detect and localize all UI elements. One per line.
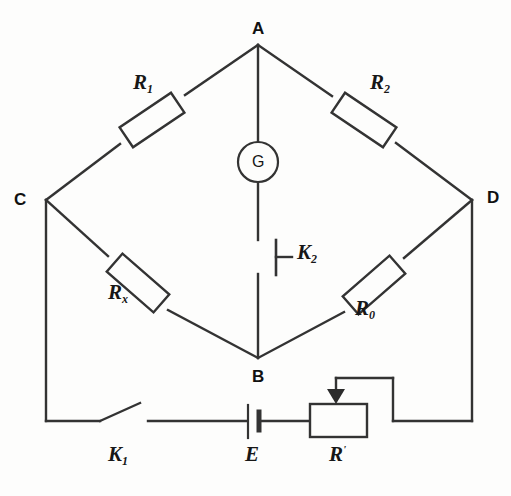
wire-rx-to-b — [168, 310, 258, 358]
resistor-r2-subscript: 2 — [384, 82, 390, 96]
node-label-b: B — [252, 368, 264, 385]
wire-a-to-r2 — [258, 45, 332, 96]
resistor-rx-letter: R — [108, 280, 122, 304]
resistor-r2-body[interactable] — [332, 93, 397, 148]
resistor-r0-label: R0 — [355, 298, 375, 319]
rheostat-letter: R — [329, 442, 343, 466]
k1-switch-blade[interactable] — [100, 403, 140, 421]
resistor-r1-label: R1 — [133, 72, 153, 93]
rheostat-prime: ' — [343, 443, 346, 455]
resistor-rx-label: Rx — [108, 282, 128, 303]
switch-k1-letter: K — [108, 442, 122, 466]
wire-r1-to-a — [185, 45, 258, 95]
resistor-r2-label: R2 — [370, 72, 390, 93]
rheostat-wiper-arrowhead — [327, 389, 345, 404]
wire-c-to-rx — [46, 200, 108, 256]
node-label-c: C — [14, 191, 26, 208]
switch-k2-label: K2 — [297, 242, 317, 263]
resistor-r0-subscript: 0 — [369, 308, 375, 322]
switch-k1-subscript: 1 — [122, 454, 128, 468]
wire-r0-to-d — [404, 200, 472, 258]
resistor-r1-letter: R — [133, 70, 147, 94]
circuit-diagram-canvas: A B C D G R1 R2 Rx R0 K2 K1 E R' — [0, 0, 511, 496]
battery-label: E — [245, 444, 259, 465]
switch-k2-subscript: 2 — [311, 252, 317, 266]
resistor-r2-letter: R — [370, 70, 384, 94]
resistor-rx-subscript: x — [122, 292, 128, 306]
resistor-r1-body[interactable] — [120, 93, 185, 148]
resistor-r0-letter: R — [355, 296, 369, 320]
switch-k2-letter: K — [297, 240, 311, 264]
rheostat-body[interactable] — [310, 404, 367, 437]
galvanometer-label: G — [252, 154, 264, 170]
wire-b-to-r0 — [258, 312, 344, 358]
wire-r2-to-d — [396, 143, 472, 200]
node-label-d: D — [487, 189, 499, 206]
node-label-a: A — [252, 20, 264, 37]
wheatstone-bridge-svg — [0, 0, 511, 496]
resistor-r1-subscript: 1 — [147, 82, 153, 96]
battery-letter: E — [245, 442, 259, 466]
wire-c-to-r1 — [46, 144, 120, 200]
rheostat-label: R' — [329, 444, 346, 465]
switch-k1-label: K1 — [108, 444, 128, 465]
